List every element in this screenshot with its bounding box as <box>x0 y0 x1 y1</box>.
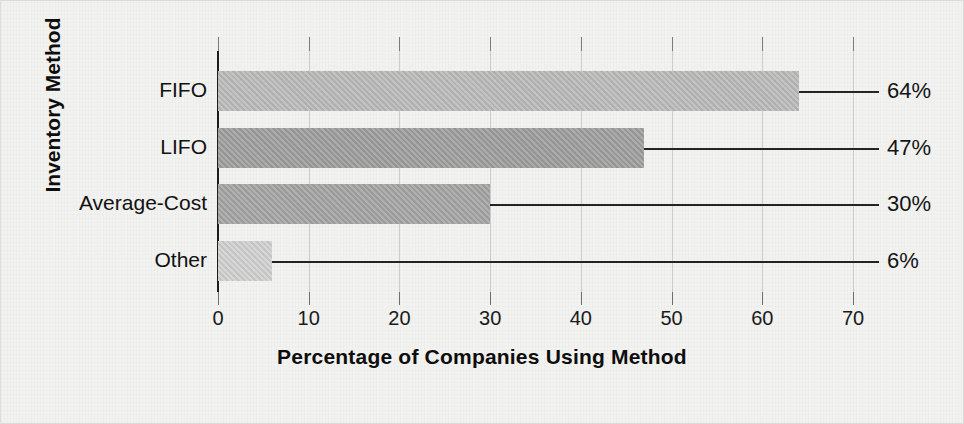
x-tick-bottom <box>581 292 582 305</box>
x-tick-label: 70 <box>842 307 864 330</box>
value-label-other: 6% <box>887 248 919 274</box>
x-tick-top <box>490 37 491 51</box>
value-label-lifo: 47% <box>887 135 931 161</box>
value-label-fifo: 64% <box>887 78 931 104</box>
x-tick-label: 40 <box>570 307 592 330</box>
category-label-average-cost: Average-Cost <box>7 191 207 215</box>
x-tick-top <box>309 37 310 51</box>
x-tick-label: 0 <box>212 307 223 330</box>
x-tick-top <box>218 37 219 51</box>
value-label-average-cost: 30% <box>887 191 931 217</box>
bar-fifo <box>218 71 799 111</box>
category-label-fifo: FIFO <box>7 78 207 102</box>
x-tick-label: 10 <box>298 307 320 330</box>
category-label-lifo: LIFO <box>7 135 207 159</box>
x-tick-bottom <box>762 292 763 305</box>
leader-line <box>490 204 879 206</box>
bar-average-cost <box>218 184 490 224</box>
bar-fill-texture <box>218 184 490 224</box>
x-tick-bottom <box>490 292 491 305</box>
x-tick-top <box>399 37 400 51</box>
x-tick-bottom <box>853 292 854 305</box>
x-tick-bottom <box>399 292 400 305</box>
leader-line <box>644 148 879 150</box>
leader-line <box>272 261 879 263</box>
x-tick-label: 30 <box>479 307 501 330</box>
y-axis-title: Inventory Method <box>41 0 65 215</box>
x-tick-bottom <box>218 292 219 305</box>
x-axis-title: Percentage of Companies Using Method <box>1 345 963 369</box>
x-tick-label: 20 <box>388 307 410 330</box>
bar-fill-texture <box>218 241 272 281</box>
gridline <box>853 51 854 292</box>
bar-chart-figure: Inventory Method Percentage of Companies… <box>0 0 964 424</box>
x-tick-label: 60 <box>751 307 773 330</box>
x-tick-bottom <box>309 292 310 305</box>
x-tick-label: 50 <box>660 307 682 330</box>
x-tick-top <box>581 37 582 51</box>
bar-other <box>218 241 272 281</box>
category-label-other: Other <box>7 248 207 272</box>
leader-line <box>799 91 879 93</box>
bar-lifo <box>218 128 644 168</box>
x-tick-top <box>853 37 854 51</box>
bar-fill-texture <box>218 71 799 111</box>
x-tick-bottom <box>672 292 673 305</box>
bar-fill-texture <box>218 128 644 168</box>
x-tick-top <box>672 37 673 51</box>
x-tick-top <box>762 37 763 51</box>
